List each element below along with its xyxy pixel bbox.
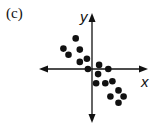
scatter-plot (0, 0, 156, 127)
data-point (93, 80, 100, 87)
data-point (115, 87, 122, 94)
data-point (96, 62, 103, 69)
axes (39, 13, 148, 123)
data-point (65, 51, 72, 58)
data-point (84, 56, 91, 63)
data-points (60, 35, 127, 106)
x-axis-left-arrow-icon (39, 66, 48, 73)
data-point (102, 80, 109, 87)
data-point (60, 45, 67, 52)
data-point (105, 66, 112, 73)
data-point (77, 59, 84, 66)
data-point (77, 46, 84, 53)
data-point (109, 78, 116, 85)
data-point (120, 93, 127, 100)
data-point (95, 71, 102, 78)
y-axis-down-arrow-icon (89, 114, 96, 123)
data-point (115, 99, 122, 106)
y-axis-up-arrow-icon (89, 13, 96, 22)
data-point (107, 93, 114, 100)
data-point (85, 66, 92, 73)
data-point (72, 35, 79, 42)
x-axis-right-arrow-icon (139, 66, 148, 73)
